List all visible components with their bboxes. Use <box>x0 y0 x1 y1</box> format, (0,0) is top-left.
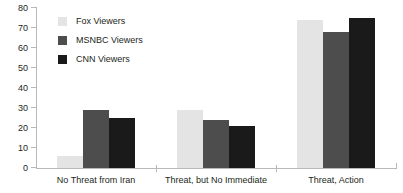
bar-group-bars <box>156 8 276 168</box>
bar-group <box>276 8 396 168</box>
y-axis-tick-label: 0 <box>23 162 28 174</box>
x-axis-line <box>36 168 396 169</box>
legend-label: MSNBC Viewers <box>76 35 143 46</box>
bar-group-bars <box>276 8 396 168</box>
bar-chart: 80706050403020100 No Threat from IranThr… <box>0 0 403 193</box>
legend-label: Fox Viewers <box>76 16 125 27</box>
bar <box>83 110 109 168</box>
y-axis-tick-label: 40 <box>18 82 28 94</box>
y-axis-tick: 0 <box>0 162 36 174</box>
bar <box>109 118 135 168</box>
y-axis-tick: 10 <box>0 142 36 154</box>
legend-label: CNN Viewers <box>76 54 130 65</box>
y-axis-tick-label: 80 <box>18 2 28 14</box>
legend-swatch-icon <box>58 55 67 64</box>
bar <box>177 110 203 168</box>
y-axis-tick: 60 <box>0 42 36 54</box>
bar <box>229 126 255 168</box>
y-axis-tick: 70 <box>0 22 36 34</box>
y-axis-tick-label: 30 <box>18 102 28 114</box>
x-axis-label: Threat, Action <box>276 174 396 186</box>
bar <box>57 156 83 168</box>
y-axis-tick: 20 <box>0 122 36 134</box>
bar <box>297 20 323 168</box>
y-axis-tick: 50 <box>0 62 36 74</box>
bar <box>203 120 229 168</box>
y-axis-tick-label: 50 <box>18 62 28 74</box>
y-axis-tick-label: 70 <box>18 22 28 34</box>
legend-item: CNN Viewers <box>58 50 143 69</box>
x-axis-label: No Threat from Iran <box>36 174 156 186</box>
y-axis-tick: 80 <box>0 2 36 14</box>
chart-legend: Fox ViewersMSNBC ViewersCNN Viewers <box>58 12 143 69</box>
legend-item: Fox Viewers <box>58 12 143 31</box>
y-axis-tick: 40 <box>0 82 36 94</box>
legend-item: MSNBC Viewers <box>58 31 143 50</box>
legend-swatch-icon <box>58 36 67 45</box>
x-axis-label: Threat, but No Immediate <box>156 174 276 186</box>
legend-swatch-icon <box>58 17 67 26</box>
x-axis-end-cap <box>396 163 397 169</box>
bar <box>323 32 349 168</box>
y-axis-tick-label: 20 <box>18 122 28 134</box>
y-axis-tick-label: 60 <box>18 42 28 54</box>
bar-group <box>156 8 276 168</box>
y-axis-tick-label: 10 <box>18 142 28 154</box>
bar <box>349 18 375 168</box>
y-axis-tick: 30 <box>0 102 36 114</box>
